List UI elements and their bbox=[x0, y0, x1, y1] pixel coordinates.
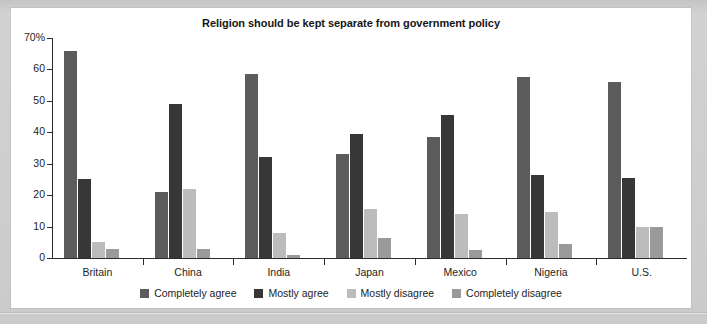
bar bbox=[273, 233, 286, 258]
bar bbox=[608, 82, 621, 258]
bar bbox=[245, 74, 258, 258]
legend-label: Mostly disagree bbox=[361, 287, 435, 299]
legend-item-mostly-disagree[interactable]: Mostly disagree bbox=[347, 287, 435, 299]
bar bbox=[287, 255, 300, 258]
bar-series-layer bbox=[52, 38, 687, 259]
legend-label: Mostly agree bbox=[268, 287, 328, 299]
x-axis-label: Japan bbox=[355, 266, 384, 278]
y-tick-label: 0 bbox=[39, 251, 45, 263]
y-tick-label: 60 bbox=[33, 62, 45, 74]
legend-label: Completely agree bbox=[154, 287, 236, 299]
chart-title: Religion should be kept separate from go… bbox=[11, 17, 691, 29]
y-tick-label: 40 bbox=[33, 125, 45, 137]
x-axis-label: Mexico bbox=[444, 266, 477, 278]
x-axis-label: Britain bbox=[82, 266, 112, 278]
bar bbox=[364, 209, 377, 258]
bar bbox=[106, 249, 119, 258]
legend-label: Completely disagree bbox=[466, 287, 562, 299]
chart-legend: Completely agreeMostly agreeMostly disag… bbox=[11, 287, 691, 299]
bar bbox=[92, 242, 105, 258]
bar bbox=[350, 134, 363, 258]
bar bbox=[517, 77, 530, 258]
group-separator-tick bbox=[596, 259, 597, 265]
legend-item-completely-disagree[interactable]: Completely disagree bbox=[452, 287, 562, 299]
group-separator-tick bbox=[233, 259, 234, 265]
x-axis-label: U.S. bbox=[631, 266, 651, 278]
legend-swatch-icon bbox=[254, 289, 263, 298]
legend-swatch-icon bbox=[140, 289, 149, 298]
x-axis-label: India bbox=[267, 266, 290, 278]
group-separator-tick bbox=[506, 259, 507, 265]
x-axis-label: China bbox=[174, 266, 201, 278]
bar bbox=[259, 157, 272, 258]
chart-figure-card: Religion should be kept separate from go… bbox=[11, 8, 691, 308]
x-axis-label: Nigeria bbox=[534, 266, 567, 278]
group-separator-tick bbox=[143, 259, 144, 265]
bar bbox=[78, 179, 91, 258]
bar bbox=[622, 178, 635, 258]
bar bbox=[545, 212, 558, 258]
bar bbox=[441, 115, 454, 258]
y-tick-label: 50 bbox=[33, 94, 45, 106]
y-tick-label: 20 bbox=[33, 188, 45, 200]
bar bbox=[169, 104, 182, 258]
bar bbox=[469, 250, 482, 258]
bar bbox=[378, 238, 391, 258]
y-tick-label: 30 bbox=[33, 157, 45, 169]
mat-seam-bottom bbox=[0, 313, 707, 314]
y-tick-label: 10 bbox=[33, 220, 45, 232]
group-separator-tick bbox=[415, 259, 416, 265]
bar bbox=[155, 192, 168, 258]
x-axis-labels: BritainChinaIndiaJapanMexicoNigeriaU.S. bbox=[52, 266, 687, 282]
y-tick-label: 70% bbox=[24, 31, 45, 43]
bar bbox=[531, 175, 544, 258]
bar bbox=[559, 244, 572, 258]
bar bbox=[636, 227, 649, 258]
page-background: Religion should be kept separate from go… bbox=[0, 0, 707, 324]
bar bbox=[64, 51, 77, 258]
bar bbox=[455, 214, 468, 258]
bar bbox=[336, 154, 349, 258]
bar bbox=[427, 137, 440, 258]
legend-item-completely-agree[interactable]: Completely agree bbox=[140, 287, 236, 299]
legend-item-mostly-agree[interactable]: Mostly agree bbox=[254, 287, 328, 299]
bar bbox=[183, 189, 196, 258]
legend-swatch-icon bbox=[347, 289, 356, 298]
bar bbox=[650, 227, 663, 258]
chart-plot-area: 010203040506070% bbox=[52, 38, 687, 259]
bar bbox=[197, 249, 210, 258]
group-separator-tick bbox=[324, 259, 325, 265]
legend-swatch-icon bbox=[452, 289, 461, 298]
